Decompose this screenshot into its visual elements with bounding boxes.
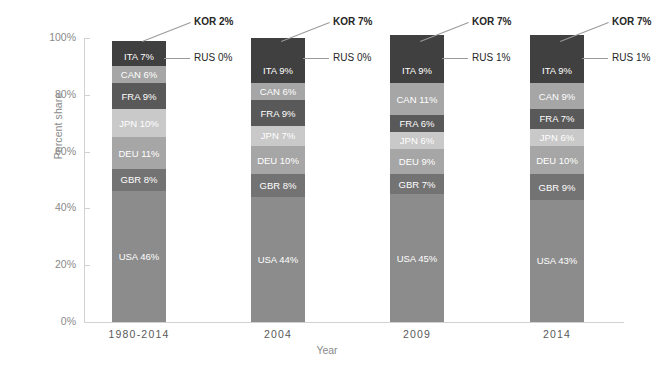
segment-data-label: GBR 9% xyxy=(539,182,576,193)
segment-data-label: JPN 6% xyxy=(400,135,434,146)
y-tick-mark xyxy=(84,95,90,96)
bar-segment-fra[interactable]: FRA 9% xyxy=(251,100,305,126)
callout-leader-line-kor xyxy=(281,22,330,42)
stacked-bar-chart: Percent share Year 0%20%40%60%80%100% US… xyxy=(0,0,654,369)
y-tick-label: 20% xyxy=(12,258,76,270)
bar-segment-jpn[interactable]: JPN 7% xyxy=(251,126,305,146)
y-tick-mark xyxy=(84,208,90,209)
x-category-label: 2004 xyxy=(208,328,348,340)
segment-data-label: CAN 11% xyxy=(396,94,437,105)
bar-segment-rus[interactable] xyxy=(390,55,444,58)
y-tick-label: 40% xyxy=(12,201,76,213)
segment-data-label: FRA 6% xyxy=(400,118,435,129)
bar-segment-jpn[interactable]: JPN 6% xyxy=(390,132,444,149)
callout-label-kor: KOR 7% xyxy=(612,16,651,27)
segment-data-label: DEU 11% xyxy=(118,148,159,159)
segment-data-label: USA 43% xyxy=(537,255,578,266)
bar-segment-usa[interactable]: USA 46% xyxy=(112,191,166,322)
segment-data-label: DEU 9% xyxy=(399,156,435,167)
segment-data-label: CAN 9% xyxy=(539,91,575,102)
y-tick-mark xyxy=(84,322,90,323)
bar-segment-kor[interactable] xyxy=(390,35,444,55)
bar-segment-gbr[interactable]: GBR 7% xyxy=(390,174,444,194)
y-tick-label: 60% xyxy=(12,145,76,157)
callout-label-rus: RUS 1% xyxy=(612,52,650,63)
segment-data-label: FRA 7% xyxy=(540,113,575,124)
x-axis-title: Year xyxy=(0,344,654,356)
bar-segment-can[interactable]: CAN 6% xyxy=(112,66,166,83)
segment-data-label: JPN 10% xyxy=(119,118,159,129)
segment-data-label: DEU 10% xyxy=(257,155,299,166)
bar-segment-jpn[interactable]: JPN 10% xyxy=(112,109,166,137)
segment-data-label: ITA 7% xyxy=(124,51,154,62)
callout-leader-line-kor xyxy=(560,22,609,42)
bar-segment-gbr[interactable]: GBR 8% xyxy=(112,169,166,192)
y-tick-label: 80% xyxy=(12,88,76,100)
bar-stack[interactable]: USA 46%GBR 8%DEU 11%JPN 10%FRA 9%CAN 6%I… xyxy=(112,38,166,322)
bar-segment-jpn[interactable]: JPN 6% xyxy=(530,129,584,146)
bar-segment-fra[interactable]: FRA 9% xyxy=(112,83,166,109)
bar-segment-ita[interactable]: ITA 9% xyxy=(251,58,305,84)
bar-segment-deu[interactable]: DEU 11% xyxy=(112,137,166,168)
bar-segment-deu[interactable]: DEU 10% xyxy=(530,146,584,174)
bar-segment-kor[interactable] xyxy=(112,41,166,47)
segment-data-label: FRA 9% xyxy=(261,108,296,119)
callout-label-kor: KOR 7% xyxy=(333,16,372,27)
bar-segment-gbr[interactable]: GBR 9% xyxy=(530,174,584,200)
segment-data-label: USA 45% xyxy=(397,253,438,264)
bar-segment-kor[interactable] xyxy=(530,35,584,55)
callout-leader-line-rus xyxy=(582,58,608,59)
callout-leader-line-kor xyxy=(142,22,191,42)
segment-data-label: CAN 6% xyxy=(260,86,296,97)
x-category-label: 2009 xyxy=(347,328,487,340)
callout-label-kor: KOR 7% xyxy=(472,16,511,27)
segment-data-label: DEU 10% xyxy=(536,155,578,166)
bar-segment-fra[interactable]: FRA 6% xyxy=(390,115,444,132)
segment-data-label: ITA 9% xyxy=(263,65,293,76)
y-axis-title: Percent share xyxy=(52,66,64,186)
callout-label-kor: KOR 2% xyxy=(194,16,233,27)
bar-segment-rus[interactable] xyxy=(530,55,584,58)
segment-data-label: CAN 6% xyxy=(121,69,157,80)
y-tick-mark xyxy=(84,152,90,153)
bar-stack[interactable]: USA 43%GBR 9%DEU 10%JPN 6%FRA 7%CAN 9%IT… xyxy=(530,38,584,322)
segment-data-label: GBR 8% xyxy=(260,180,297,191)
y-tick-mark xyxy=(84,265,90,266)
bar-segment-fra[interactable]: FRA 7% xyxy=(530,109,584,129)
callout-label-rus: RUS 0% xyxy=(194,52,232,63)
y-tick-label: 100% xyxy=(12,31,76,43)
bar-segment-deu[interactable]: DEU 10% xyxy=(251,146,305,174)
bar-segment-ita[interactable]: ITA 9% xyxy=(530,58,584,84)
callout-label-rus: RUS 0% xyxy=(333,52,371,63)
callout-leader-line-kor xyxy=(420,22,469,42)
segment-data-label: GBR 7% xyxy=(399,179,436,190)
bar-segment-usa[interactable]: USA 44% xyxy=(251,197,305,322)
bar-segment-deu[interactable]: DEU 9% xyxy=(390,149,444,175)
x-category-label: 2014 xyxy=(487,328,627,340)
bar-stack[interactable]: USA 45%GBR 7%DEU 9%JPN 6%FRA 6%CAN 11%IT… xyxy=(390,38,444,322)
segment-data-label: ITA 9% xyxy=(542,65,572,76)
x-category-label: 1980-2014 xyxy=(69,328,209,340)
bar-segment-gbr[interactable]: GBR 8% xyxy=(251,174,305,197)
bar-segment-ita[interactable]: ITA 7% xyxy=(112,47,166,67)
segment-data-label: JPN 7% xyxy=(261,130,295,141)
segment-data-label: USA 44% xyxy=(258,254,299,265)
bar-segment-usa[interactable]: USA 45% xyxy=(390,194,444,322)
segment-data-label: FRA 9% xyxy=(122,91,157,102)
y-tick-mark xyxy=(84,38,90,39)
segment-data-label: USA 46% xyxy=(119,251,160,262)
callout-label-rus: RUS 1% xyxy=(472,52,510,63)
segment-data-label: JPN 6% xyxy=(540,132,574,143)
segment-data-label: ITA 9% xyxy=(402,65,432,76)
bar-segment-can[interactable]: CAN 11% xyxy=(390,83,444,114)
bar-segment-kor[interactable] xyxy=(251,38,305,58)
bar-segment-ita[interactable]: ITA 9% xyxy=(390,58,444,84)
callout-leader-line-rus xyxy=(442,58,468,59)
bar-segment-usa[interactable]: USA 43% xyxy=(530,200,584,322)
callout-leader-line-rus xyxy=(303,58,329,59)
callout-leader-line-rus xyxy=(164,58,190,59)
y-axis-line xyxy=(84,38,85,323)
bar-segment-can[interactable]: CAN 9% xyxy=(530,83,584,109)
bar-segment-can[interactable]: CAN 6% xyxy=(251,83,305,100)
bar-stack[interactable]: USA 44%GBR 8%DEU 10%JPN 7%FRA 9%CAN 6%IT… xyxy=(251,38,305,322)
